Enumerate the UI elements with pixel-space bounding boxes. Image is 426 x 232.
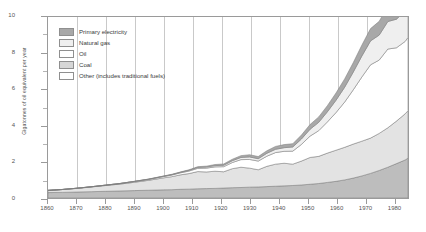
- x-tick-label: 1970: [351, 205, 381, 211]
- x-tick-mark: [337, 199, 338, 204]
- y-tick-label: 6: [0, 85, 15, 91]
- x-tick-label: 1950: [293, 205, 323, 211]
- y-tick-label: 4: [0, 122, 15, 128]
- x-tick-label: 1920: [206, 205, 236, 211]
- x-tick-mark: [279, 199, 280, 204]
- x-tick-mark: [308, 199, 309, 204]
- legend-item-label: Oil: [79, 50, 86, 58]
- legend-item: Other (includes traditional fuels): [59, 72, 165, 80]
- x-tick-mark: [221, 199, 222, 204]
- x-tick-mark: [105, 199, 106, 204]
- legend-item-label: Primary electricity: [79, 28, 127, 36]
- x-tick-mark: [76, 199, 77, 204]
- x-tick-label: 1940: [264, 205, 294, 211]
- y-tick-label: 2: [0, 158, 15, 164]
- x-tick-label: 1980: [380, 205, 410, 211]
- x-tick-label: 1880: [90, 205, 120, 211]
- x-tick-mark: [366, 199, 367, 204]
- legend-item-label: Coal: [79, 61, 92, 69]
- energy-consumption-chart: Gigatonnes of oil equivalent per year 02…: [0, 0, 426, 232]
- legend-item-label: Natural gas: [79, 39, 110, 47]
- legend-item: Oil: [59, 50, 165, 58]
- x-tick-label: 1870: [61, 205, 91, 211]
- legend-item: Primary electricity: [59, 28, 165, 36]
- y-tick-label: 0: [0, 195, 15, 201]
- legend-swatch-icon: [59, 28, 74, 36]
- x-tick-label: 1900: [148, 205, 178, 211]
- x-tick-label: 1910: [177, 205, 207, 211]
- legend-item: Natural gas: [59, 39, 165, 47]
- x-tick-mark: [192, 199, 193, 204]
- y-tick-label: 10: [0, 12, 15, 18]
- x-tick-mark: [395, 199, 396, 204]
- x-tick-mark: [250, 199, 251, 204]
- legend-swatch-icon: [59, 72, 74, 80]
- legend-swatch-icon: [59, 39, 74, 47]
- x-tick-label: 1930: [235, 205, 265, 211]
- legend-item-label: Other (includes traditional fuels): [79, 72, 165, 80]
- x-tick-label: 1890: [119, 205, 149, 211]
- legend: Primary electricityNatural gasOilCoalOth…: [59, 28, 165, 80]
- x-tick-mark: [134, 199, 135, 204]
- legend-swatch-icon: [59, 61, 74, 69]
- legend-item: Coal: [59, 61, 165, 69]
- x-tick-mark: [163, 199, 164, 204]
- y-tick-label: 8: [0, 49, 15, 55]
- x-tick-label: 1960: [322, 205, 352, 211]
- legend-swatch-icon: [59, 50, 74, 58]
- y-axis-title: Gigatonnes of oil equivalent per year: [21, 1, 27, 181]
- x-tick-mark: [47, 199, 48, 204]
- x-tick-label: 1860: [32, 205, 62, 211]
